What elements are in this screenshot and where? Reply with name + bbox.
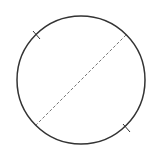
diagram-canvas [0,0,157,156]
circle-diagram [0,0,157,156]
dashed-diameter [36,35,126,125]
